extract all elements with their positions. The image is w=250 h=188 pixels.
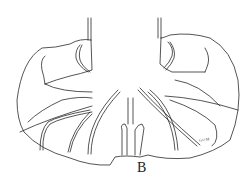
figure-canvas: B GOM [0, 0, 250, 188]
anatomical-drawing [0, 0, 250, 188]
figure-label: B [137, 160, 146, 176]
